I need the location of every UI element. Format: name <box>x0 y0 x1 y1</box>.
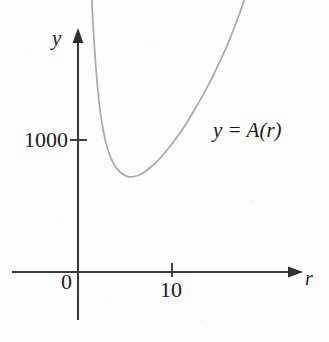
paper-speck <box>110 300 113 302</box>
y-axis <box>73 28 84 320</box>
curve-a-of-r <box>89 0 248 177</box>
y-tick-label-1000: 1000 <box>24 129 68 151</box>
x-tick-label-10: 10 <box>160 279 182 301</box>
paper-speck <box>200 320 204 322</box>
y-axis-label: y <box>52 28 61 49</box>
x-axis <box>12 267 303 278</box>
paper-speck <box>250 200 253 203</box>
figure-canvas: y r 1000 0 10 y = A(r) <box>0 0 329 342</box>
paper-speck <box>150 44 154 46</box>
origin-label: 0 <box>61 271 72 293</box>
paper-speck <box>60 220 63 222</box>
paper-speck <box>30 50 33 52</box>
curve-annotation-label: y = A(r) <box>213 120 282 141</box>
x-axis-label: r <box>305 268 313 288</box>
